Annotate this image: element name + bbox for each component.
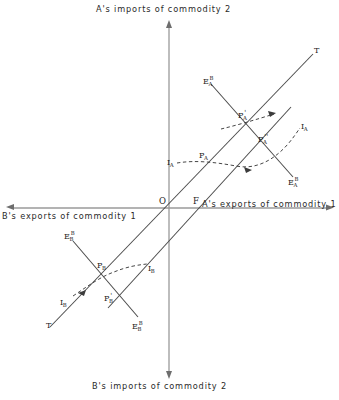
- curve-label-IB-right: IB: [148, 265, 155, 273]
- axis-caption-bottom: B's imports of commodity 2: [92, 381, 227, 391]
- curve-label-EA-B-lower: EAB: [288, 179, 302, 187]
- curve-T-line: [50, 54, 313, 327]
- axis-caption-left: B's exports of commodity 1: [2, 211, 137, 221]
- point-label-PB-prime: PB': [104, 295, 115, 303]
- axis-caption-right: A's exports of commodity 1: [202, 199, 337, 209]
- axis-arrow-up-icon: [166, 20, 172, 28]
- curve-label-T-lower: T: [46, 322, 51, 330]
- axis-arrow-left-icon: [6, 204, 14, 210]
- origin-label-O: O: [159, 196, 166, 206]
- curve-label-T-upper: T: [314, 47, 319, 55]
- curve-EA-B-upper: [211, 84, 293, 177]
- point-label-F: F: [193, 196, 199, 206]
- point-label-PA-prime: PA': [238, 112, 249, 120]
- curve-label-EB-B-upper: EBB: [64, 233, 78, 241]
- curve-label-IB-left: IB: [60, 299, 67, 307]
- point-label-PA-double-prime: PA'': [258, 136, 271, 144]
- axis-caption-top: A's imports of commodity 2: [96, 4, 231, 14]
- curve-label-EB-B-lower: EBB: [132, 323, 146, 331]
- curve-label-IA-right: IA: [301, 123, 308, 131]
- curve-label-EA-B-upper: EAB: [203, 78, 217, 86]
- solid-curves: [50, 54, 313, 327]
- point-label-PA: PA: [199, 152, 208, 160]
- curve-IA-lower: [177, 128, 300, 167]
- curve-EB-B-lower: [73, 241, 138, 317]
- arrowhead-IA-prime-icon: [268, 111, 276, 117]
- arrowhead-IB-icon: [78, 290, 86, 296]
- point-label-PB: PB: [97, 262, 106, 270]
- axis-arrow-down-icon: [166, 371, 172, 379]
- curve-label-IA-left: IA: [167, 159, 174, 167]
- arrowhead-IA-right-icon: [244, 167, 252, 173]
